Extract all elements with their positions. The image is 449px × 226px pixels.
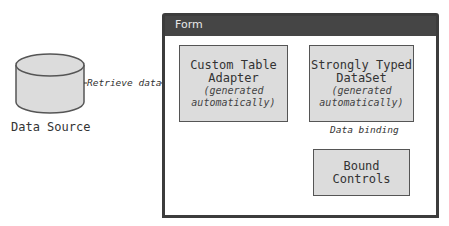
database-cylinder-icon xyxy=(16,54,84,113)
node-strongly-typed-dataset: Strongly Typed DataSet (generated automa… xyxy=(309,45,414,122)
edge-label-data-binding: Data binding xyxy=(330,124,399,135)
form-header: Form xyxy=(165,16,436,36)
form-title: Form xyxy=(175,18,203,31)
node-bound-controls: Bound Controls xyxy=(313,149,410,196)
node-custom-table-adapter: Custom Table Adapter (generated automati… xyxy=(179,45,288,122)
data-source-label: Data Source xyxy=(11,120,90,134)
edge-label-retrieve-data: Retrieve data xyxy=(87,77,161,88)
